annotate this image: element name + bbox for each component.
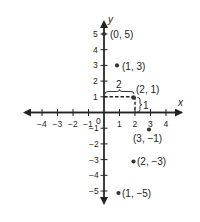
svg-text:−2: −2 bbox=[89, 139, 99, 149]
svg-text:2: 2 bbox=[93, 76, 98, 86]
point-label-2-1: (2, 1) bbox=[136, 84, 159, 95]
svg-text:−1: −1 bbox=[89, 123, 99, 133]
point-labels: (0, 5) (1, 3) (2, 1) (3, −1) (2, −3) (1,… bbox=[110, 29, 166, 199]
svg-text:−5: −5 bbox=[89, 186, 99, 196]
svg-text:1: 1 bbox=[93, 92, 98, 102]
svg-text:4: 4 bbox=[93, 45, 98, 55]
coordinate-plane-figure: x y 0 −4 −3 −2 −1 1 2 3 4 bbox=[0, 0, 200, 222]
run-label: 2 bbox=[116, 79, 122, 90]
point-label-1-3: (1, 3) bbox=[122, 61, 145, 72]
svg-text:3: 3 bbox=[93, 60, 98, 70]
point-label-3-neg1: (3, −1) bbox=[133, 133, 162, 144]
run-brace bbox=[105, 90, 134, 95]
svg-text:2: 2 bbox=[133, 119, 138, 129]
svg-text:−3: −3 bbox=[53, 119, 63, 129]
svg-text:−4: −4 bbox=[89, 170, 99, 180]
point-2-1 bbox=[131, 95, 136, 100]
rise-brace bbox=[138, 98, 143, 113]
point-label-2-neg3: (2, −3) bbox=[137, 156, 166, 167]
svg-text:1: 1 bbox=[117, 119, 122, 129]
svg-text:−2: −2 bbox=[68, 119, 78, 129]
point-2-neg3 bbox=[131, 159, 135, 163]
coordinate-plane-svg: x y 0 −4 −3 −2 −1 1 2 3 4 bbox=[0, 0, 200, 222]
svg-text:−4: −4 bbox=[37, 119, 47, 129]
point-label-0-5: (0, 5) bbox=[110, 29, 133, 40]
point-1-neg5 bbox=[116, 191, 120, 195]
plotted-points bbox=[102, 32, 151, 195]
y-axis-label: y bbox=[107, 14, 114, 25]
svg-text:−3: −3 bbox=[89, 155, 99, 165]
rise-label: 1 bbox=[143, 100, 149, 111]
svg-text:4: 4 bbox=[164, 119, 169, 129]
point-0-5 bbox=[102, 32, 106, 36]
point-1-3 bbox=[115, 63, 119, 67]
svg-text:5: 5 bbox=[93, 29, 98, 39]
point-3-neg1 bbox=[147, 127, 151, 131]
x-axis-label: x bbox=[177, 97, 184, 108]
point-label-1-neg5: (1, −5) bbox=[122, 188, 151, 199]
